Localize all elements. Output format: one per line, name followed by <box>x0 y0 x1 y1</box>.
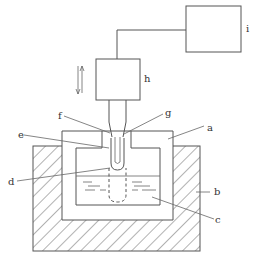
label-a: a <box>207 122 213 133</box>
label-e: e <box>18 129 24 140</box>
label-i: i <box>246 23 249 34</box>
apparatus-diagram: i h <box>0 0 254 262</box>
label-c: c <box>215 214 221 225</box>
cable <box>117 30 186 59</box>
label-f: f <box>58 110 63 121</box>
up-down-arrow-icon <box>76 66 84 94</box>
label-h: h <box>144 73 151 84</box>
drive-unit <box>96 59 140 100</box>
label-d: d <box>8 176 15 187</box>
label-g: g <box>165 107 172 118</box>
controller-unit <box>186 6 241 52</box>
container <box>62 131 173 220</box>
label-b: b <box>214 186 220 197</box>
